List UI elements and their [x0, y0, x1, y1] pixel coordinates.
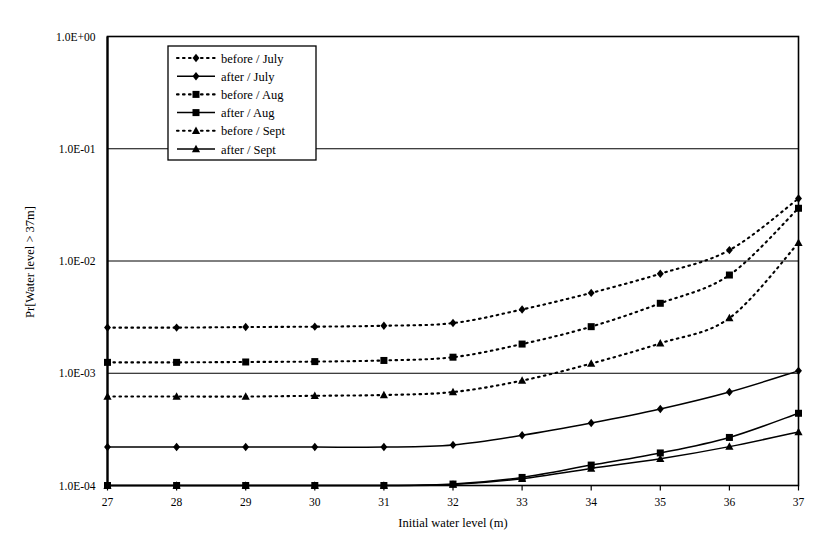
legend-label: after / Sept [221, 143, 276, 157]
x-tick-label: 29 [240, 496, 252, 508]
x-tick-label: 30 [309, 496, 321, 508]
marker-square [588, 323, 595, 330]
marker-square [104, 359, 111, 366]
marker-square [173, 359, 180, 366]
x-axis-title: Initial water level (m) [398, 516, 507, 530]
chart-background [0, 0, 834, 552]
x-tick-label: 33 [516, 496, 528, 508]
y-tick-label: 1.0E-02 [59, 255, 96, 267]
legend-label: after / Aug [221, 106, 275, 120]
x-tick-label: 32 [447, 496, 459, 508]
x-tick-label: 34 [585, 496, 597, 508]
x-tick-label: 35 [655, 496, 667, 508]
marker-square [193, 91, 200, 98]
probability-line-chart: 1.0E+001.0E-011.0E-021.0E-031.0E-04 2728… [0, 0, 834, 552]
y-tick-label: 1.0E+00 [56, 31, 96, 43]
legend-label: before / Aug [221, 88, 284, 102]
marker-square [242, 358, 249, 365]
chart-legend: before / Julyafter / Julybefore / Augaft… [168, 46, 316, 160]
marker-square [795, 410, 802, 417]
marker-square [380, 357, 387, 364]
x-tick-label: 37 [793, 496, 805, 508]
legend-label: before / Sept [221, 124, 285, 138]
marker-square [519, 341, 526, 348]
legend-label: before / July [221, 52, 284, 66]
legend-label: after / July [221, 70, 275, 84]
marker-square [726, 272, 733, 279]
y-tick-label: 1.0E-01 [59, 143, 96, 155]
marker-square [311, 358, 318, 365]
chart-page: 1.0E+001.0E-011.0E-021.0E-031.0E-04 2728… [0, 0, 834, 552]
marker-square [795, 205, 802, 212]
marker-square [450, 354, 457, 361]
x-tick-label: 31 [378, 496, 390, 508]
x-tick-label: 28 [171, 496, 183, 508]
x-tick-label: 27 [102, 496, 114, 508]
y-tick-label: 1.0E-04 [59, 480, 96, 492]
y-axis-title: Pr[Water level > 37m] [23, 206, 37, 318]
marker-square [193, 109, 200, 116]
marker-square [657, 300, 664, 307]
x-tick-label: 36 [724, 496, 736, 508]
marker-square [726, 434, 733, 441]
y-tick-label: 1.0E-03 [59, 367, 96, 379]
